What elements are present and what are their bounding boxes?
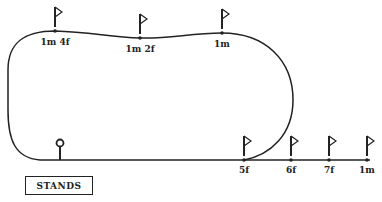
distance-marker: 1m 2f: [125, 14, 155, 54]
marker-label: 1m 2f: [125, 44, 155, 54]
flag-icon: [367, 136, 374, 156]
distance-marker: 1m: [359, 136, 375, 175]
flag-icon: [55, 7, 62, 27]
distance-marker: 1m 4f: [40, 7, 70, 47]
marker-label: 6f: [286, 165, 297, 175]
distance-marker: 7f: [324, 136, 336, 175]
marker-dot: [53, 29, 57, 33]
flag-icon: [222, 9, 229, 29]
flag-icon: [244, 136, 251, 156]
marker-label: 1m: [359, 165, 375, 175]
flag-icon: [329, 136, 336, 156]
marker-label: 7f: [324, 165, 335, 175]
racetrack-diagram: 1m 4f1m 2f1m 5f6f7f1m: [0, 0, 382, 202]
marker-dot: [242, 158, 246, 162]
marker-dot: [138, 36, 142, 40]
flag-icon: [291, 136, 298, 156]
marker-dot: [327, 158, 331, 162]
distance-marker: 6f: [286, 136, 298, 175]
marker-label: 5f: [239, 165, 250, 175]
winning-post-icon: [57, 140, 64, 161]
flag-icon: [140, 14, 147, 34]
marker-dot: [220, 31, 224, 35]
distance-marker: 5f: [239, 136, 251, 175]
marker-label: 1m: [214, 39, 230, 49]
distance-marker: 1m: [214, 9, 230, 49]
stands-label: STANDS: [25, 176, 93, 195]
marker-dot: [365, 158, 369, 162]
marker-dot: [289, 158, 293, 162]
marker-label: 1m 4f: [40, 37, 70, 47]
